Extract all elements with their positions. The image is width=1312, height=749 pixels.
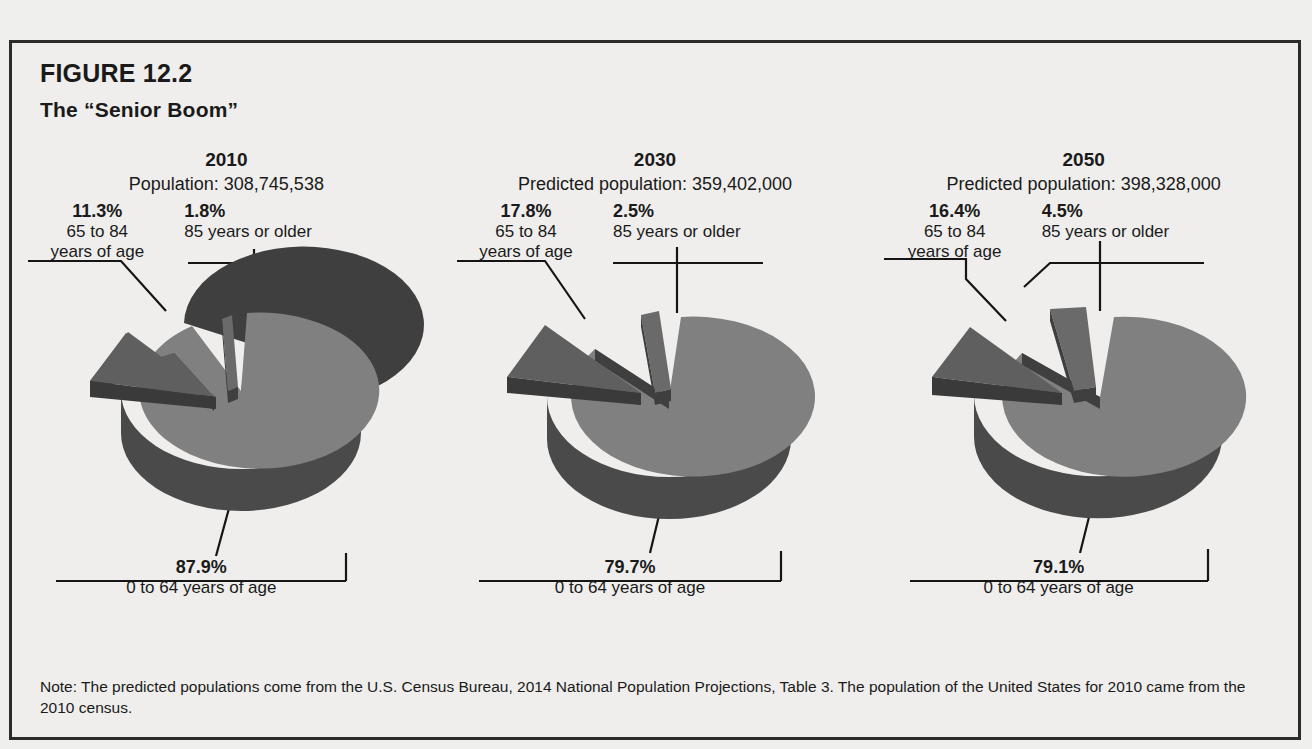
figure-box: FIGURE 12.2 The “Senior Boom” 2010 Popul… xyxy=(9,40,1301,740)
chart-subtitle-2050: Predicted population: 398,328,000 xyxy=(874,174,1294,195)
figure-number: FIGURE 12.2 xyxy=(40,59,238,88)
slice-65-84 xyxy=(507,325,641,405)
pie-chart-2010: 11.3% 65 to 84 years of age 1.8% 85 year… xyxy=(16,201,436,661)
figure-header: FIGURE 12.2 The “Senior Boom” xyxy=(40,59,238,122)
chart-subtitle-2030: Predicted population: 359,402,000 xyxy=(445,174,865,195)
figure-title: The “Senior Boom” xyxy=(40,98,238,122)
chart-title-2030: 2030 xyxy=(445,149,865,171)
chart-column-2010: 2010 Population: 308,745,538 11.3% 65 to… xyxy=(16,149,436,661)
pie-graphic-2010 xyxy=(16,201,436,661)
pie-chart-2030: 17.8% 65 to 84 years of age 2.5% 85 year… xyxy=(445,201,865,661)
chart-column-2050: 2050 Predicted population: 398,328,000 1… xyxy=(874,149,1294,661)
slice-0-64 xyxy=(974,317,1246,519)
figure-note: Note: The predicted populations come fro… xyxy=(40,677,1274,719)
charts-container: 2010 Population: 308,745,538 11.3% 65 to… xyxy=(12,149,1298,661)
slice-0-64 xyxy=(547,317,815,519)
chart-subtitle-2010: Population: 308,745,538 xyxy=(16,174,436,195)
chart-title-2010: 2010 xyxy=(16,149,436,171)
pie-chart-2050: 16.4% 65 to 84 years of age 4.5% 85 year… xyxy=(874,201,1294,661)
pie-graphic-2030 xyxy=(445,201,865,661)
pie-graphic-2050 xyxy=(874,201,1294,661)
chart-title-2050: 2050 xyxy=(874,149,1294,171)
chart-column-2030: 2030 Predicted population: 359,402,000 1… xyxy=(445,149,865,661)
